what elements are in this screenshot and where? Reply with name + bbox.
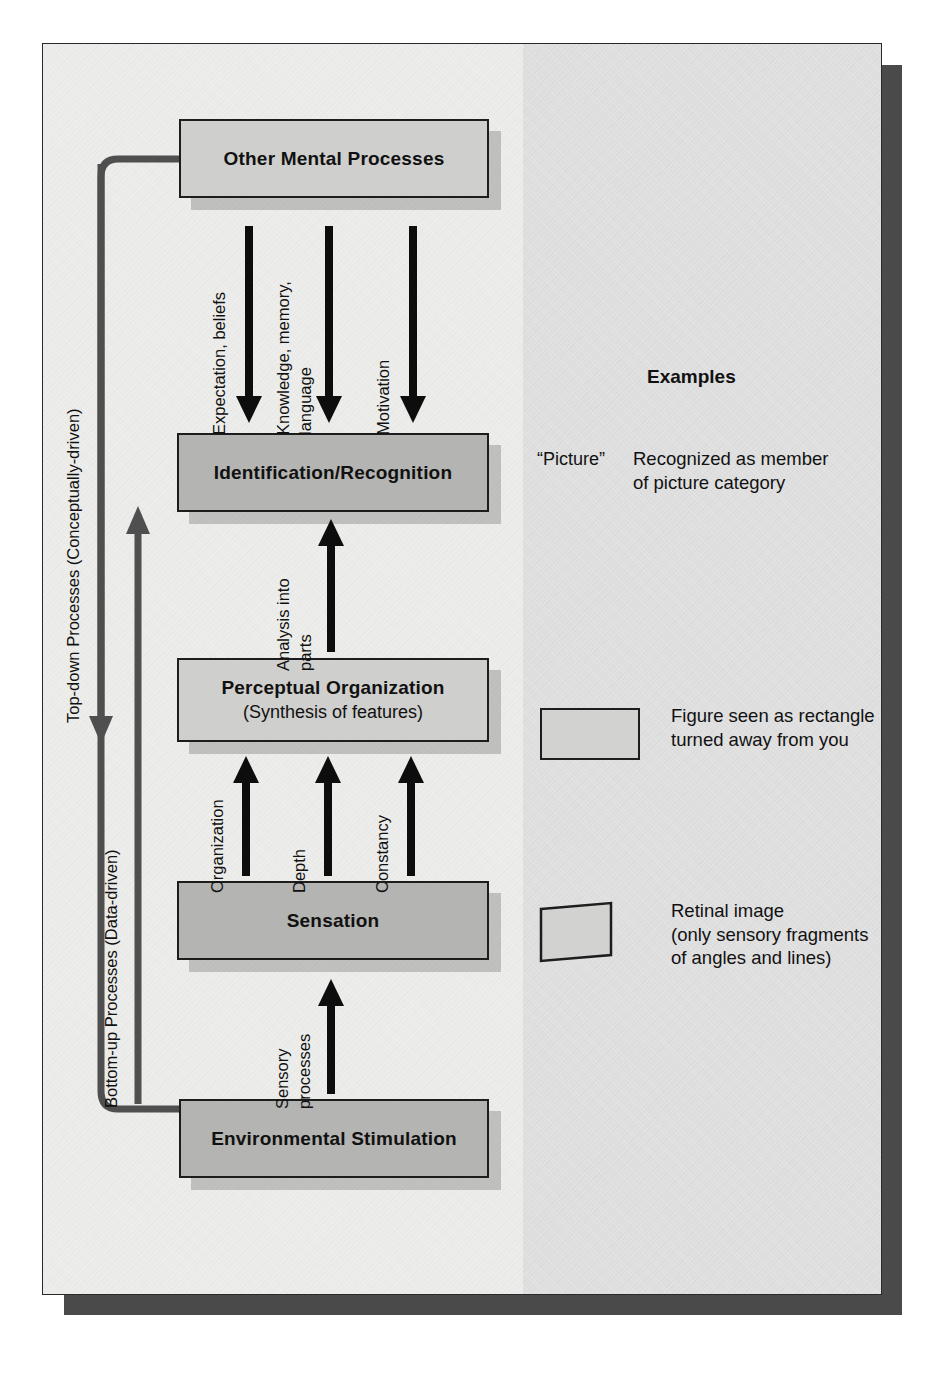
example-description-line-1: Recognized as member xyxy=(633,447,882,471)
arrow-constancy xyxy=(398,756,424,876)
arrow-analysis-into-parts xyxy=(318,519,344,652)
arrow-motivation xyxy=(400,226,426,423)
examples-heading: Examples xyxy=(647,366,736,388)
example-description-line-2: turned away from you xyxy=(671,728,882,752)
example-description-picture: Recognized as member of picture category xyxy=(633,447,882,494)
arrow-knowledge-memory-language xyxy=(316,226,342,423)
example-description-line-1: Retinal image xyxy=(671,899,882,923)
arrow-label-motivation: Motivation xyxy=(374,360,393,435)
arrow-label-depth: Depth xyxy=(290,849,309,893)
arrow-label-knowledge-memory-language: Knowledge, memory, xyxy=(274,281,293,435)
flow-arrows xyxy=(43,44,881,1294)
figure-canvas: Top-down Processes (Conceptually-driven)… xyxy=(0,0,940,1382)
arrow-organization xyxy=(233,756,259,876)
example-description-line-2: (only sensory fragments xyxy=(671,923,882,947)
arrow-label-constancy: Constancy xyxy=(373,815,392,893)
example-description-line-3: of angles and lines) xyxy=(671,946,882,970)
example-cue-trapezoid-shape xyxy=(537,899,647,965)
arrow-label-expectation-beliefs: Expectation, beliefs xyxy=(210,292,229,435)
arrow-label-sensory-processes-line2: processes xyxy=(295,1034,314,1109)
example-cue-picture: “Picture” xyxy=(537,449,605,470)
figure-page: Top-down Processes (Conceptually-driven)… xyxy=(42,43,882,1295)
arrow-label-analysis-into-parts: Analysis into xyxy=(274,578,293,671)
example-description-line-1: Figure seen as rectangle xyxy=(671,704,882,728)
arrow-label-analysis-into-parts-line2: parts xyxy=(296,634,315,671)
arrow-sensory-processes xyxy=(318,979,344,1094)
arrow-depth xyxy=(315,756,341,876)
example-description-line-2: of picture category xyxy=(633,471,882,495)
arrow-expectation-beliefs xyxy=(236,226,262,423)
example-cue-rectangle-shape xyxy=(540,708,640,760)
arrow-label-sensory-processes: Sensory xyxy=(273,1048,292,1109)
example-description-rectangle: Figure seen as rectangle turned away fro… xyxy=(671,704,882,751)
arrow-label-knowledge-memory-language-line2: language xyxy=(296,367,315,435)
arrow-label-organization: Organization xyxy=(208,799,227,893)
example-description-retinal-image: Retinal image (only sensory fragments of… xyxy=(671,899,882,970)
